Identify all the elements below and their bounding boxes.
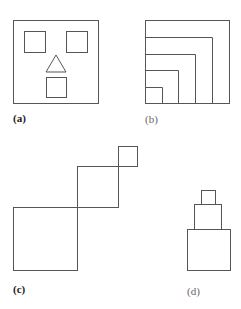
nested-square-3 xyxy=(146,55,196,104)
middle-square xyxy=(195,205,222,230)
figure-a xyxy=(14,21,99,104)
label-a: (a) xyxy=(13,112,26,124)
nested-square-1 xyxy=(146,21,230,104)
left-eye-square xyxy=(25,32,46,53)
nose-triangle xyxy=(46,55,66,72)
label-d: (d) xyxy=(187,285,200,297)
figure-canvas xyxy=(0,0,241,309)
face-outline xyxy=(14,21,99,104)
medium-square xyxy=(78,167,119,208)
bottom-square xyxy=(188,230,231,271)
right-eye-square xyxy=(67,32,88,53)
small-square xyxy=(119,147,138,167)
figure-b xyxy=(146,21,230,104)
top-square xyxy=(202,191,216,205)
label-b: (b) xyxy=(145,113,158,125)
label-c: (c) xyxy=(13,283,25,295)
mouth-square xyxy=(47,78,67,98)
figure-d xyxy=(188,191,231,271)
figure-c xyxy=(14,147,138,271)
large-square xyxy=(14,208,78,271)
nested-square-5 xyxy=(146,88,163,104)
